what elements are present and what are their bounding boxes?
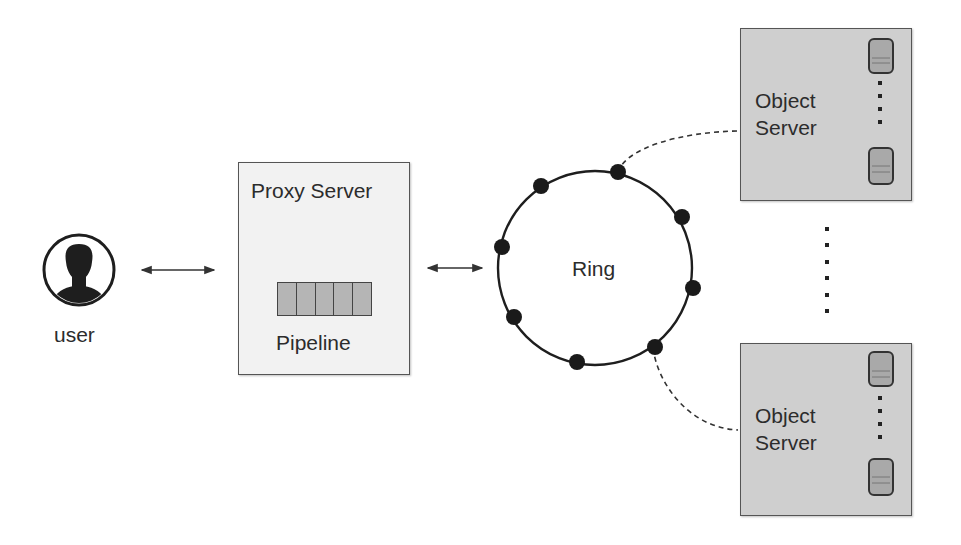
ring-node[interactable] bbox=[610, 164, 626, 180]
pipeline-label: Pipeline bbox=[276, 331, 351, 355]
object-server-box-1[interactable] bbox=[740, 28, 912, 201]
ring-node[interactable] bbox=[533, 178, 549, 194]
pipeline-segment bbox=[334, 283, 353, 315]
ring-node[interactable] bbox=[674, 209, 690, 225]
ring-node[interactable] bbox=[685, 280, 701, 296]
object-server-1-label-line2: Server bbox=[755, 116, 817, 140]
ring-node[interactable] bbox=[494, 239, 510, 255]
ring-node[interactable] bbox=[647, 339, 663, 355]
object-server-2-label-line1: Object bbox=[755, 404, 816, 428]
more-servers-ellipsis bbox=[825, 227, 829, 313]
proxy-server-title: Proxy Server bbox=[251, 179, 372, 203]
pipeline-segment bbox=[297, 283, 316, 315]
pipeline-segment bbox=[316, 283, 335, 315]
pipeline-segment bbox=[278, 283, 297, 315]
pipeline-segment bbox=[353, 283, 371, 315]
ring-node[interactable] bbox=[569, 354, 585, 370]
object-server-box-2[interactable] bbox=[740, 343, 912, 516]
ring-to-object-server-1-link bbox=[618, 131, 738, 172]
ring-node[interactable] bbox=[506, 309, 522, 325]
object-server-2-label-line2: Server bbox=[755, 431, 817, 455]
user-avatar-icon bbox=[44, 235, 114, 310]
ring-label: Ring bbox=[572, 257, 615, 281]
user-label: user bbox=[54, 323, 95, 347]
pipeline-queue[interactable] bbox=[277, 282, 372, 316]
ring-to-object-server-2-link bbox=[653, 348, 738, 430]
object-server-1-label-line1: Object bbox=[755, 89, 816, 113]
